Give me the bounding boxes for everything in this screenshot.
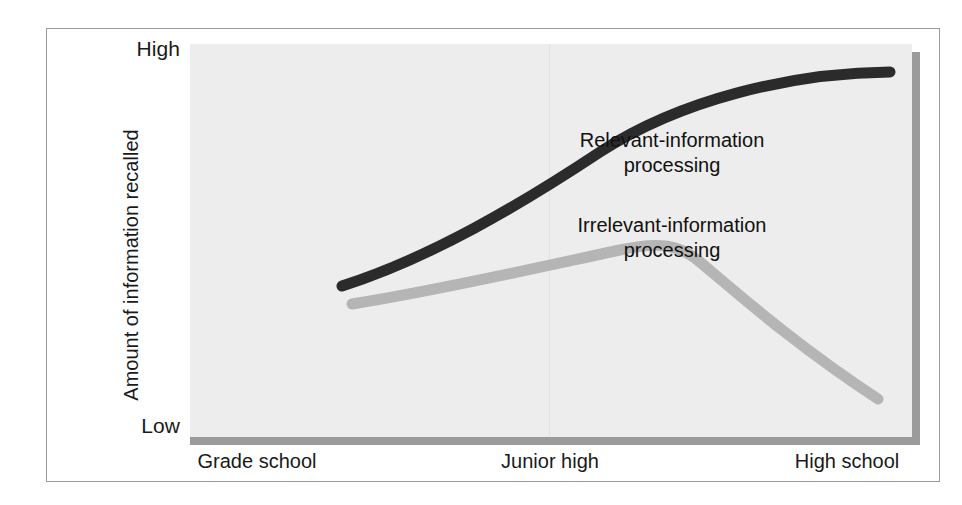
- y-axis-tick-low: Low: [0, 414, 190, 438]
- annotation-irrelevant-information: Irrelevant-information processing: [578, 213, 767, 263]
- annotation-relevant-line1: Relevant-information: [580, 129, 765, 151]
- chart-figure: High Low Amount of information recalled …: [0, 0, 962, 505]
- x-axis-tick-grade-school: Grade school: [198, 450, 317, 473]
- annotation-irrelevant-line1: Irrelevant-information: [578, 214, 767, 236]
- x-axis-tick-high-school: High school: [795, 450, 900, 473]
- annotation-irrelevant-line2: processing: [578, 238, 767, 263]
- gridline-vertical: [549, 44, 550, 437]
- annotation-relevant-line2: processing: [580, 153, 765, 178]
- x-axis-tick-junior-high: Junior high: [501, 450, 599, 473]
- plot-area: [190, 44, 912, 437]
- annotation-relevant-information: Relevant-information processing: [580, 128, 765, 178]
- right-axis-rule: [912, 52, 920, 445]
- x-axis-rule: [190, 437, 920, 445]
- y-axis-title: Amount of information recalled: [116, 69, 146, 462]
- y-axis-tick-high: High: [0, 37, 190, 61]
